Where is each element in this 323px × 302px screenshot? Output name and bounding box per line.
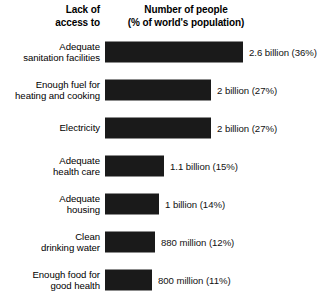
category-label-line: Clean	[0, 231, 100, 242]
value-label: 2 billion (27%)	[217, 85, 277, 96]
bar-and-value: 1.1 billion (15%)	[105, 156, 238, 177]
category-label: Enough fuel forheating and cooking	[0, 79, 100, 102]
category-label: Enough food forgood health	[0, 269, 100, 292]
category-label-line: health care	[0, 166, 100, 177]
bar-row: Adequatehousing1 billion (14%)	[0, 185, 323, 223]
bar-and-value: 800 million (11%)	[105, 270, 231, 291]
category-label: Cleandrinking water	[0, 231, 100, 254]
category-column-header-line-1: Lack of	[0, 4, 100, 17]
bar-rows: Adequatesanitation facilities2.6 billion…	[0, 33, 323, 299]
bar	[105, 42, 243, 63]
bar-and-value: 1 billion (14%)	[105, 194, 225, 215]
category-label-line: Adequate	[0, 155, 100, 166]
bar-row: Electricity2 billion (27%)	[0, 109, 323, 147]
bar	[105, 194, 159, 215]
value-label: 2 billion (27%)	[217, 123, 277, 134]
category-column-header-line-2: access to	[0, 17, 100, 30]
value-column-header-line-2: (% of world's population)	[105, 17, 267, 30]
bar-and-value: 2.6 billion (36%)	[105, 42, 317, 63]
bar-row: Enough food forgood health800 million (1…	[0, 261, 323, 299]
value-column-header-line-1: Number of people	[105, 4, 267, 17]
bar	[105, 270, 152, 291]
category-label: Adequatesanitation facilities	[0, 41, 100, 64]
category-label-line: Adequate	[0, 41, 100, 52]
category-label-line: Electricity	[0, 122, 100, 133]
category-column-header: Lack of access to	[0, 4, 100, 29]
category-label-line: drinking water	[0, 242, 100, 253]
bar-and-value: 880 million (12%)	[105, 232, 234, 253]
chart-header: Lack of access to Number of people (% of…	[0, 4, 323, 32]
bar-row: Adequatehealth care1.1 billion (15%)	[0, 147, 323, 185]
bar-chart: Lack of access to Number of people (% of…	[0, 0, 323, 302]
bar-row: Enough fuel forheating and cooking2 bill…	[0, 71, 323, 109]
value-column-header: Number of people (% of world's populatio…	[105, 4, 267, 29]
value-label: 1.1 billion (15%)	[170, 161, 238, 172]
bar-and-value: 2 billion (27%)	[105, 118, 277, 139]
value-label: 880 million (12%)	[161, 237, 234, 248]
bar	[105, 232, 155, 253]
bar	[105, 156, 164, 177]
bar	[105, 80, 211, 101]
category-label-line: good health	[0, 280, 100, 291]
category-label-line: heating and cooking	[0, 90, 100, 101]
category-label-line: sanitation facilities	[0, 52, 100, 63]
category-label-line: Enough fuel for	[0, 79, 100, 90]
category-label: Electricity	[0, 122, 100, 133]
category-label: Adequatehousing	[0, 193, 100, 216]
bar-row: Cleandrinking water880 million (12%)	[0, 223, 323, 261]
category-label-line: Enough food for	[0, 269, 100, 280]
value-label: 2.6 billion (36%)	[249, 47, 317, 58]
value-label: 1 billion (14%)	[165, 199, 225, 210]
category-label-line: Adequate	[0, 193, 100, 204]
bar-row: Adequatesanitation facilities2.6 billion…	[0, 33, 323, 71]
bar-and-value: 2 billion (27%)	[105, 80, 277, 101]
value-label: 800 million (11%)	[158, 275, 231, 286]
category-label: Adequatehealth care	[0, 155, 100, 178]
bar	[105, 118, 211, 139]
category-label-line: housing	[0, 204, 100, 215]
